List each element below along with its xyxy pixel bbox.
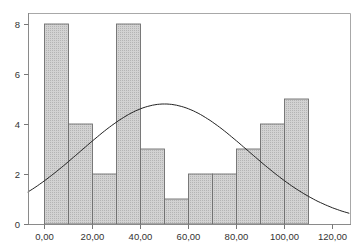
histogram-bar [237,149,261,224]
y-axis-ticks: 02468 [15,19,29,230]
x-tick-label: 100,00 [270,231,299,242]
x-tick-label: 20,00 [81,231,105,242]
histogram-chart: 02468 0,0020,0040,0060,0080,00100,00120,… [0,0,362,250]
histogram-bar [69,124,93,224]
y-tick-label: 2 [15,169,20,180]
histogram-bar [45,24,69,224]
histogram-bar [189,174,213,224]
histogram-bar [141,149,165,224]
histogram-bar [93,174,117,224]
y-tick-label: 8 [15,19,20,30]
histogram-bar [285,99,309,224]
x-tick-label: 80,00 [225,231,249,242]
y-tick-label: 4 [15,119,20,130]
x-tick-label: 40,00 [129,231,153,242]
histogram-bar [165,199,189,224]
x-axis-ticks: 0,0020,0040,0060,0080,00100,00120,00 [35,225,347,243]
y-tick-label: 0 [15,219,20,230]
histogram-bar [213,174,237,224]
x-tick-label: 0,00 [35,231,54,242]
x-tick-label: 60,00 [177,231,201,242]
histogram-bar [261,124,285,224]
y-tick-label: 6 [15,69,20,80]
x-tick-label: 120,00 [318,231,347,242]
histogram-bar [117,24,141,224]
